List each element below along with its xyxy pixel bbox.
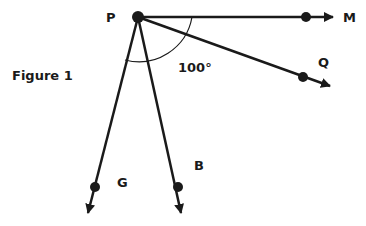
ray-label-b: B [194, 158, 204, 173]
ray-label-q: Q [318, 55, 329, 70]
point-b [173, 182, 183, 192]
figure-caption: Figure 1 [12, 68, 73, 83]
point-p [132, 11, 144, 23]
ray-label-g: G [117, 175, 128, 190]
point-q [298, 72, 308, 82]
point-m [301, 12, 311, 22]
point-g [90, 182, 100, 192]
angle-label: 100° [178, 60, 212, 75]
ray-label-m: M [343, 10, 356, 25]
geometry-diagram: P M Q G B 100° Figure 1 [0, 0, 366, 226]
vertex-label-p: P [106, 10, 116, 25]
